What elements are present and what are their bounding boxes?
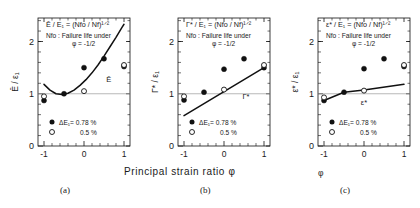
x-tick-label: -1 bbox=[320, 149, 328, 159]
panel-caption-b: (b) bbox=[200, 185, 211, 195]
legend-marker-filled bbox=[330, 120, 335, 125]
data-point-filled bbox=[82, 65, 87, 70]
curve-label: ε* bbox=[361, 98, 367, 107]
y-tick-label: 2 bbox=[169, 37, 174, 47]
data-point-open bbox=[42, 94, 47, 99]
y-tick-label: 2 bbox=[309, 37, 314, 47]
y-tick-label: 1 bbox=[169, 89, 174, 99]
data-point-filled bbox=[102, 56, 107, 61]
data-point-filled bbox=[62, 91, 67, 96]
data-point-open bbox=[262, 63, 267, 68]
panel-equation-title: ε* / E₁ = (Nfo / Nf)¹ᐟ² bbox=[326, 20, 391, 29]
y-tick-label: 0 bbox=[29, 141, 34, 151]
legend-marker-open bbox=[50, 130, 55, 135]
y-tick-label: 1 bbox=[309, 89, 314, 99]
panel-equation-title: Ē / E₁ = (Nfo / Nf)¹ᐟ² bbox=[46, 20, 110, 29]
legend-marker-filled bbox=[50, 120, 55, 125]
y-tick-label: 2 bbox=[29, 37, 34, 47]
legend-label-open: 0.5 % bbox=[80, 129, 97, 136]
panel-note-line-2: Nfo : Failure life under bbox=[186, 32, 252, 39]
legend-label-open: 0.5 % bbox=[220, 129, 237, 136]
x-tick-label: -1 bbox=[40, 149, 48, 159]
data-point-filled bbox=[362, 66, 367, 71]
data-point-open bbox=[222, 87, 227, 92]
x-tick-label: -1 bbox=[180, 149, 188, 159]
y-tick-label: 0 bbox=[309, 141, 314, 151]
y-tick-label: 1 bbox=[29, 89, 34, 99]
data-point-open bbox=[322, 95, 327, 100]
data-point-open bbox=[182, 94, 187, 99]
legend-label-filled: ΔE₁= 0.78 % bbox=[339, 119, 376, 126]
data-point-filled bbox=[242, 56, 247, 61]
panel-a: -101012Ē / E₁ = (Nfo / Nf)¹ᐟ²Nfo : Failu… bbox=[10, 18, 130, 159]
legend-label-filled: ΔE₁= 0.78 % bbox=[199, 119, 236, 126]
curve-label: Ē bbox=[106, 75, 111, 84]
x-tick-label: 0 bbox=[82, 149, 87, 159]
y-axis-label: Ē / ε₁ bbox=[10, 72, 20, 92]
x-axis-title: Principal strain ratio φ bbox=[124, 166, 235, 177]
x-tick-label: 0 bbox=[222, 149, 227, 159]
data-point-filled bbox=[222, 67, 227, 72]
data-point-open bbox=[122, 63, 127, 68]
legend-label-filled: ΔE₁= 0.78 % bbox=[59, 119, 96, 126]
legend-label-open: 0.5 % bbox=[360, 129, 377, 136]
panel-caption-c: (c) bbox=[340, 185, 350, 195]
data-point-filled bbox=[202, 90, 207, 95]
x-tick-label: 1 bbox=[262, 149, 267, 159]
phi-symbol-label: φ bbox=[318, 168, 324, 178]
curve-label: Γ* bbox=[242, 92, 249, 101]
legend-marker-open bbox=[190, 130, 195, 135]
y-axis-label: Γ* / ε₁ bbox=[150, 71, 160, 93]
y-tick-label: 0 bbox=[169, 141, 174, 151]
panel-note-line-3: φ = -1/2 bbox=[212, 40, 235, 48]
x-tick-label: 0 bbox=[362, 149, 367, 159]
x-tick-label: 1 bbox=[402, 149, 407, 159]
panel-b: -101012Γ* / E₁ = (Nfo / Nf)¹ᐟ²Nfo : Fail… bbox=[150, 18, 270, 159]
panel-note-line-2: Nfo : Failure life under bbox=[326, 32, 392, 39]
legend-marker-filled bbox=[190, 120, 195, 125]
data-point-open bbox=[82, 89, 87, 94]
data-point-filled bbox=[342, 90, 347, 95]
panel-caption-a: (a) bbox=[60, 185, 70, 195]
data-point-open bbox=[362, 88, 367, 93]
data-point-open bbox=[402, 63, 407, 68]
x-tick-label: 1 bbox=[122, 149, 127, 159]
panel-note-line-2: Nfo : Failure life under bbox=[46, 32, 112, 39]
panel-note-line-3: φ = -1/2 bbox=[352, 40, 375, 48]
panel-note-line-3: φ = -1/2 bbox=[72, 40, 95, 48]
panel-equation-title: Γ* / E₁ = (Nfo / Nf)¹ᐟ² bbox=[186, 20, 252, 29]
legend-marker-open bbox=[330, 130, 335, 135]
panel-c: -101012ε* / E₁ = (Nfo / Nf)¹ᐟ²Nfo : Fail… bbox=[290, 18, 410, 159]
data-point-filled bbox=[382, 56, 387, 61]
y-axis-label: ε* / ε₁ bbox=[290, 71, 300, 92]
